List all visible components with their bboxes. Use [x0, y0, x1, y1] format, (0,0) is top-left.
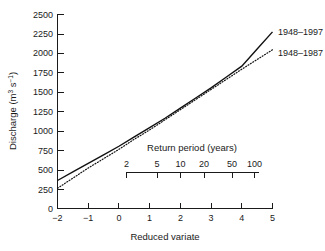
- x-tick-label: 0: [116, 213, 121, 223]
- y-tick-label: 1500: [33, 87, 53, 97]
- y-tick-label: 1250: [33, 107, 53, 117]
- x-tick-label: 3: [209, 213, 214, 223]
- return-period-tick-label: 50: [227, 159, 237, 169]
- y-tick-label: 1000: [33, 126, 53, 136]
- x-axis-tick-labels: −2 −1 0 1 2 3 4 5: [52, 213, 275, 223]
- x-tick-label: 2: [178, 213, 183, 223]
- return-period-tick-label: 20: [199, 159, 209, 169]
- return-period-axis-title: Return period (years): [147, 142, 237, 153]
- chart-figure: 2500 2250 2000 1750 1500 1250 1000 750 5…: [0, 0, 325, 251]
- return-period-axis: Return period (years) 2 5 10 20 50 100: [124, 142, 262, 178]
- return-period-tick-label: 5: [154, 159, 159, 169]
- y-tick-label: 1750: [33, 68, 53, 78]
- y-tick-label: 2250: [33, 29, 53, 39]
- return-period-tick-label: 10: [175, 159, 185, 169]
- y-tick-label: 0: [48, 204, 53, 214]
- return-period-tick-label: 2: [124, 159, 129, 169]
- x-tick-label: −2: [52, 213, 62, 223]
- x-tick-label: −1: [83, 213, 93, 223]
- x-tick-label: 5: [270, 213, 275, 223]
- y-tick-label: 500: [38, 165, 53, 175]
- series-line-1948-1997: [58, 32, 273, 181]
- y-tick-label: 250: [38, 185, 53, 195]
- y-tick-label: 2000: [33, 48, 53, 58]
- x-axis-ticks: [58, 203, 273, 209]
- x-axis-title: Reduced variate: [130, 231, 199, 242]
- y-tick-label: 2500: [33, 10, 53, 20]
- x-tick-label: 1: [147, 213, 152, 223]
- x-tick-label: 4: [239, 213, 244, 223]
- y-axis-title: Discharge (m3 s−1): [7, 72, 18, 150]
- series-label-1948-1987: 1948–1987: [278, 48, 323, 58]
- discharge-frequency-chart: 2500 2250 2000 1750 1500 1250 1000 750 5…: [0, 0, 325, 251]
- series-label-1948-1997: 1948–1997: [278, 27, 323, 37]
- return-period-tick-label: 100: [247, 159, 262, 169]
- y-axis-tick-labels: 2500 2250 2000 1750 1500 1250 1000 750 5…: [33, 10, 53, 214]
- y-tick-label: 750: [38, 146, 53, 156]
